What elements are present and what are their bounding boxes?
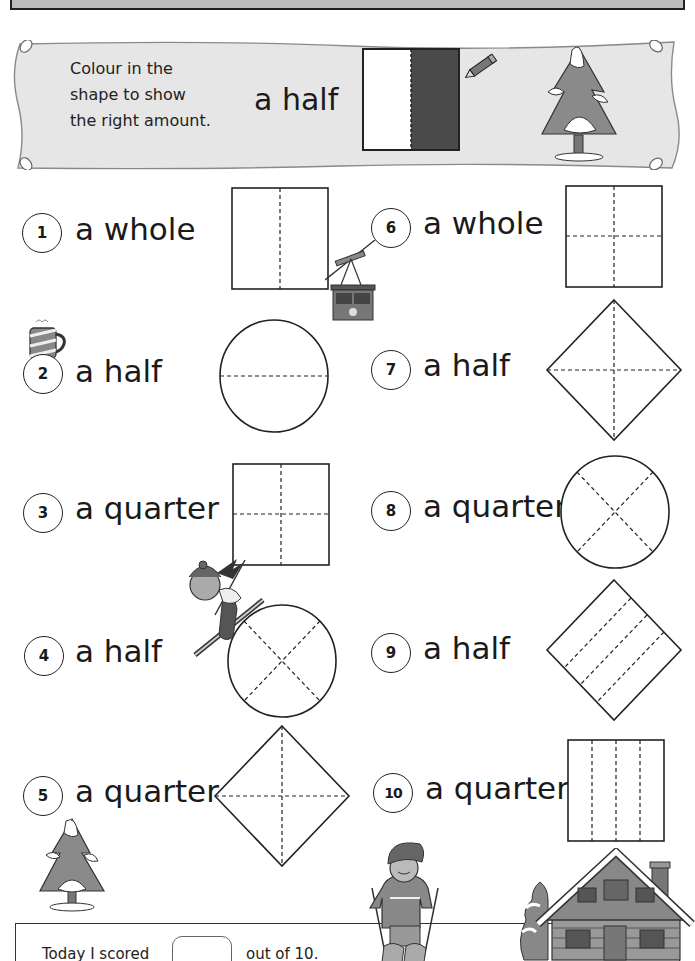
shape-rectangle-vertical-strips[interactable] bbox=[567, 739, 665, 842]
example-label: a half bbox=[254, 82, 338, 117]
shape-square-quarters[interactable] bbox=[232, 463, 330, 566]
question-label: a half bbox=[423, 347, 510, 383]
question-number-badge: 6 bbox=[371, 208, 411, 248]
question-label: a quarter bbox=[423, 488, 567, 524]
shape-diamond-quarters[interactable] bbox=[545, 298, 683, 442]
question-number-badge: 7 bbox=[371, 350, 411, 390]
question-label: a half bbox=[75, 633, 162, 669]
instruction-text: Colour in the shape to show the right am… bbox=[70, 56, 211, 134]
instruction-banner: Colour in the shape to show the right am… bbox=[12, 40, 682, 170]
instruction-line-1: Colour in the bbox=[70, 56, 211, 82]
shape-square-halves[interactable] bbox=[231, 187, 329, 290]
question-label: a whole bbox=[75, 211, 196, 247]
question-label: a half bbox=[423, 630, 510, 666]
question-label: a whole bbox=[423, 205, 544, 241]
score-input-box[interactable] bbox=[172, 936, 232, 961]
shape-diamond-diagonal-strips[interactable] bbox=[545, 578, 683, 722]
log-cabin-icon bbox=[512, 848, 695, 961]
shape-square-quarters[interactable] bbox=[565, 185, 663, 288]
shape-circle-diagonal-quarters[interactable] bbox=[559, 454, 671, 570]
question-number-badge: 1 bbox=[22, 213, 62, 253]
question-number-badge: 3 bbox=[23, 493, 63, 533]
shape-diamond-quarters[interactable] bbox=[213, 724, 351, 868]
score-suffix-label: out of 10. bbox=[246, 945, 318, 961]
question-number-badge: 8 bbox=[371, 491, 411, 531]
skier-girl-icon bbox=[175, 555, 270, 665]
instruction-line-2: shape to show bbox=[70, 82, 211, 108]
question-number-badge: 10 bbox=[373, 773, 413, 813]
instruction-line-3: the right amount. bbox=[70, 108, 211, 134]
question-number-badge: 4 bbox=[24, 636, 64, 676]
shape-circle-halves[interactable] bbox=[218, 318, 330, 434]
question-number-badge: 2 bbox=[23, 354, 63, 394]
snowy-tree-icon bbox=[32, 815, 112, 915]
score-prefix-label: Today I scored bbox=[42, 945, 149, 961]
snowy-tree-icon bbox=[534, 40, 624, 165]
pencil-icon bbox=[462, 50, 502, 82]
question-label: a quarter bbox=[75, 773, 219, 809]
question-label: a quarter bbox=[75, 490, 219, 526]
question-label: a half bbox=[75, 353, 162, 389]
example-half-shaded-square bbox=[362, 48, 460, 151]
cable-car-icon bbox=[325, 240, 385, 322]
question-number-badge: 5 bbox=[23, 776, 63, 816]
title-bar bbox=[10, 0, 685, 10]
question-number-badge: 9 bbox=[371, 633, 411, 673]
skier-boy-icon bbox=[362, 838, 448, 961]
question-label: a quarter bbox=[425, 770, 569, 806]
